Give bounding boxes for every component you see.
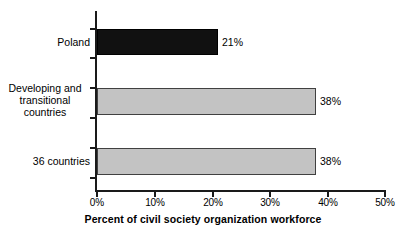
category-label-developing-line3: countries [0, 106, 90, 119]
y-axis-tick [90, 57, 96, 59]
category-label-developing-line2: transitional [0, 94, 90, 107]
category-label-poland: Poland [0, 36, 90, 49]
y-axis-tick [90, 28, 96, 30]
x-axis-label-40: 40% [308, 197, 348, 208]
bar-36-countries [97, 148, 316, 175]
bar-value-36-countries: 38% [320, 155, 341, 167]
x-axis-label-0: 0% [77, 197, 117, 208]
category-label-developing-line1: Developing and [0, 82, 90, 95]
y-axis-tick [90, 177, 96, 179]
x-axis-label-20: 20% [193, 197, 233, 208]
x-axis-label-50: 50% [365, 197, 405, 208]
y-axis-tick [90, 147, 96, 149]
bar-value-developing: 38% [320, 95, 341, 107]
x-axis-label-10: 10% [135, 197, 175, 208]
category-label-36-countries: 36 countries [0, 155, 90, 168]
bar-chart: 21% 38% 38% Poland Developing and transi… [0, 0, 406, 235]
bar-poland [97, 29, 218, 55]
bar-value-poland: 21% [222, 36, 243, 48]
y-axis-tick [90, 87, 96, 89]
y-axis-tick [90, 117, 96, 119]
x-axis-label-30: 30% [250, 197, 290, 208]
x-axis-title: Percent of civil society organization wo… [0, 213, 406, 225]
bar-developing-transitional-countries [97, 88, 316, 115]
x-axis-line [95, 190, 386, 192]
